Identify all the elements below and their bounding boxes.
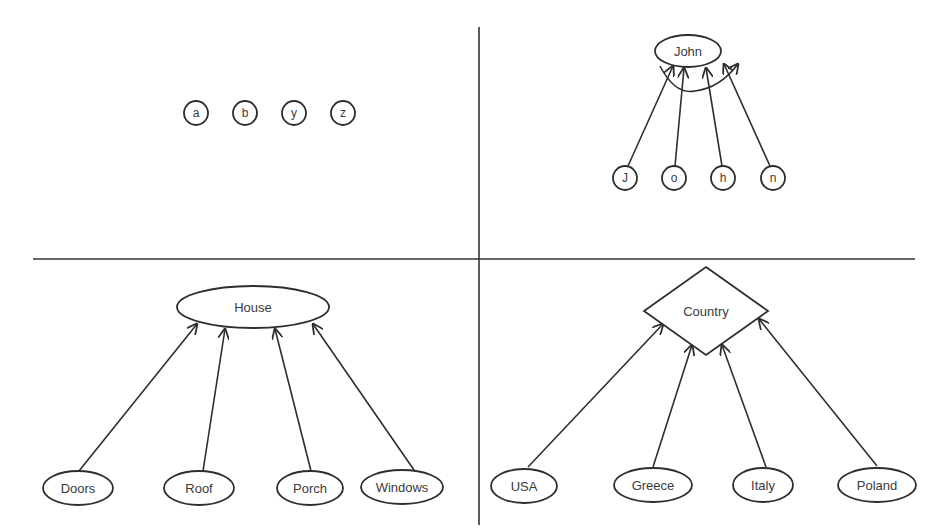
node-z: z bbox=[331, 101, 355, 125]
node-label: Windows bbox=[376, 480, 429, 495]
node-label: Poland bbox=[857, 478, 897, 493]
node-n: n bbox=[761, 166, 785, 190]
node-a: a bbox=[184, 101, 208, 125]
node-y: y bbox=[282, 101, 306, 125]
arrow-edge bbox=[79, 324, 197, 471]
node-john: John bbox=[655, 35, 721, 67]
arrow-edge bbox=[722, 345, 766, 467]
node-label: o bbox=[671, 171, 678, 185]
arrow-edge bbox=[528, 324, 663, 467]
node-porch: Porch bbox=[277, 471, 343, 505]
node-h: h bbox=[711, 166, 735, 190]
diagram-canvas: abyzJohnJohnHouseDoorsRoofPorchWindowsCo… bbox=[0, 0, 951, 532]
node-label: b bbox=[242, 106, 249, 120]
node-label: Italy bbox=[751, 478, 775, 493]
node-b: b bbox=[233, 101, 257, 125]
node-j: J bbox=[613, 166, 637, 190]
arrow-edge bbox=[275, 329, 311, 471]
node-poland: Poland bbox=[838, 468, 916, 502]
node-usa: USA bbox=[491, 469, 557, 503]
arrow-edge bbox=[203, 329, 225, 471]
node-label: Roof bbox=[185, 481, 213, 496]
node-label: USA bbox=[511, 479, 538, 494]
arrow-edge bbox=[675, 68, 684, 166]
node-windows: Windows bbox=[361, 470, 443, 504]
quadrant-dividers bbox=[33, 27, 915, 525]
quadrant-top-left: abyz bbox=[184, 101, 355, 125]
node-label: Greece bbox=[632, 478, 675, 493]
arrow-edge bbox=[653, 345, 692, 467]
node-country: Country bbox=[644, 267, 768, 355]
node-italy: Italy bbox=[733, 468, 793, 502]
node-label: John bbox=[674, 44, 702, 59]
arrow-edge bbox=[313, 324, 414, 470]
node-o: o bbox=[662, 166, 686, 190]
node-label: y bbox=[291, 106, 297, 120]
node-label: Doors bbox=[61, 481, 96, 496]
node-label: Porch bbox=[293, 481, 327, 496]
node-label: z bbox=[340, 106, 346, 120]
quadrant-top-right: JohnJohn bbox=[613, 35, 785, 190]
node-greece: Greece bbox=[614, 468, 692, 502]
node-label: House bbox=[234, 300, 272, 315]
quadrant-bottom-left: HouseDoorsRoofPorchWindows bbox=[43, 286, 443, 505]
node-label: n bbox=[770, 171, 777, 185]
node-label: Country bbox=[683, 304, 729, 319]
node-label: a bbox=[193, 106, 200, 120]
arrow-edge bbox=[628, 66, 673, 166]
node-label: h bbox=[720, 171, 727, 185]
node-doors: Doors bbox=[43, 471, 113, 505]
quadrant-bottom-right: CountryUSAGreeceItalyPoland bbox=[491, 267, 916, 503]
node-house: House bbox=[177, 286, 329, 328]
node-roof: Roof bbox=[164, 471, 234, 505]
arrow-edge bbox=[724, 64, 770, 166]
node-label: J bbox=[622, 171, 628, 185]
arrow-edge bbox=[759, 319, 877, 466]
